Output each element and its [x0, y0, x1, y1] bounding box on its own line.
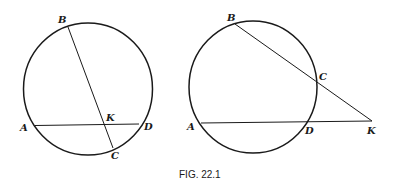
- right-secant-ak: [201, 121, 372, 123]
- label-d-right: D: [304, 125, 314, 136]
- label-d-left: D: [143, 121, 153, 132]
- label-b-left: B: [57, 14, 66, 25]
- label-c-right: C: [319, 71, 327, 82]
- label-a-left: A: [19, 122, 28, 133]
- label-c-left: C: [111, 150, 119, 161]
- right-diagram: B C A D K: [186, 12, 377, 153]
- left-chord-bc: [68, 27, 113, 148]
- left-diagram: B K A D C: [19, 14, 153, 161]
- left-chord-ad: [35, 124, 139, 126]
- label-k-right: K: [366, 125, 377, 136]
- figure-caption: FIG. 22.1: [179, 169, 221, 180]
- figure-canvas: B K A D C B C A D K FIG. 22.1: [0, 0, 396, 182]
- right-secant-bk: [235, 24, 372, 121]
- label-a-right: A: [186, 121, 195, 132]
- right-circle: [189, 21, 317, 153]
- label-k-left: K: [105, 112, 116, 123]
- left-circle: [24, 23, 153, 155]
- label-b-right: B: [226, 12, 235, 23]
